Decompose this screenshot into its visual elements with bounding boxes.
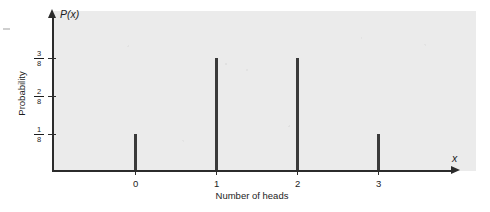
- x-tick-label-2: 2: [288, 178, 308, 189]
- probability-distribution-chart: P(x) x Probability Number of heads 3 8 2…: [0, 0, 490, 212]
- y-axis-line: [52, 17, 54, 171]
- data-spike-x0: [134, 134, 137, 171]
- y-tick-label-two-eighths: 2 8: [32, 88, 46, 105]
- x-axis-title: Number of heads: [52, 190, 452, 201]
- y-axis-title: Probability: [16, 59, 27, 129]
- y-axis-variable-label: P(x): [60, 8, 79, 20]
- scan-artifact-mark: [3, 28, 10, 30]
- data-spike-x2: [296, 58, 299, 171]
- data-spike-x1: [215, 58, 218, 171]
- y-tick-mark: [48, 58, 56, 59]
- x-axis-line: [52, 170, 452, 172]
- y-tick-label-three-eighths: 3 8: [32, 50, 46, 67]
- data-spike-x3: [377, 134, 380, 171]
- y-axis-arrowhead-icon: [48, 9, 56, 18]
- y-tick-label-one-eighth: 1 8: [32, 126, 46, 143]
- x-tick-label-3: 3: [369, 178, 389, 189]
- x-axis-variable-label: x: [452, 152, 457, 164]
- x-tick-label-0: 0: [126, 178, 146, 189]
- y-tick-mark: [48, 96, 56, 97]
- y-tick-mark: [48, 134, 56, 135]
- x-axis-arrowhead-icon: [451, 166, 460, 174]
- plot-panel-background: [52, 11, 476, 171]
- x-tick-label-1: 1: [207, 178, 227, 189]
